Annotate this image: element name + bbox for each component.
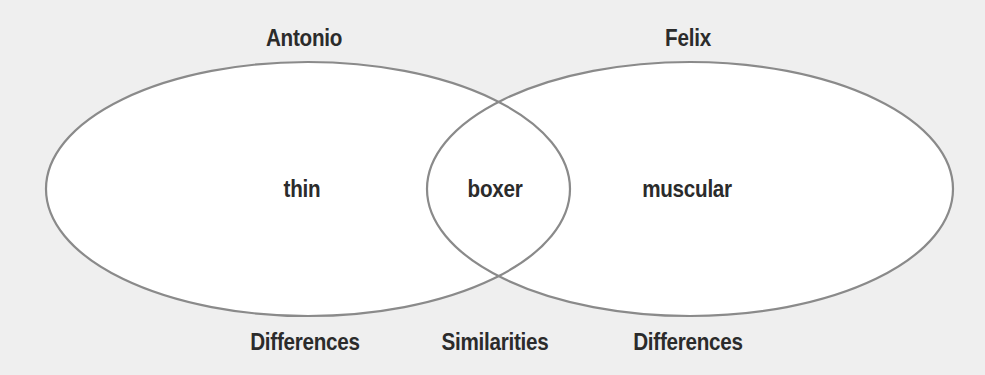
- felix-trait: muscular: [642, 177, 732, 201]
- set-title-antonio: Antonio: [266, 26, 342, 50]
- shared-trait: boxer: [468, 177, 523, 201]
- antonio-trait: thin: [284, 177, 321, 201]
- right-differences-label: Differences: [633, 330, 743, 354]
- left-differences-label: Differences: [250, 330, 360, 354]
- set-title-felix: Felix: [665, 26, 711, 50]
- similarities-label: Similarities: [441, 330, 548, 354]
- venn-diagram: Antonio Felix thin boxer muscular Differ…: [0, 0, 985, 375]
